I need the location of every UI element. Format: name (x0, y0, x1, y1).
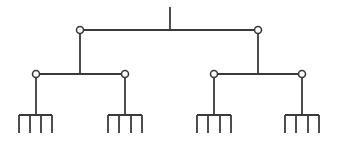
node-r (255, 27, 262, 34)
tree-diagram (0, 0, 337, 141)
node-ll (33, 71, 40, 78)
node-rr (299, 71, 306, 78)
node-l (77, 27, 84, 34)
node-rl (211, 71, 218, 78)
tree-nodes (33, 27, 306, 78)
node-lr (122, 71, 129, 78)
tree-diagram-svg (0, 0, 337, 141)
tree-edges (19, 7, 319, 133)
